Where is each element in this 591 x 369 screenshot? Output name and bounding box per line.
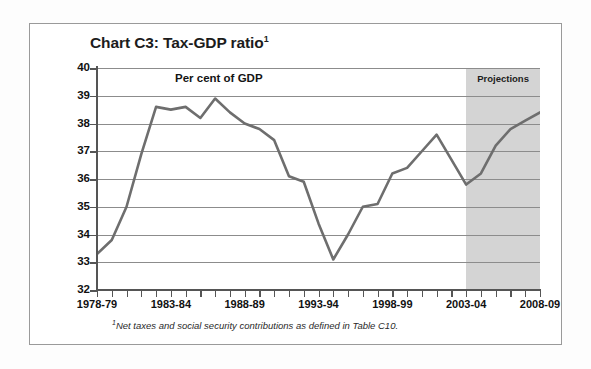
x-axis-tick-mark: [156, 291, 157, 297]
footnote-text: Net taxes and social security contributi…: [116, 320, 398, 331]
x-axis-tick-mark: [407, 291, 408, 297]
x-axis-tick-label: 1998-99: [372, 298, 412, 310]
y-axis-tick-mark: [90, 151, 97, 153]
x-axis-tick-mark: [200, 291, 201, 297]
footnote: 1Net taxes and social security contribut…: [112, 319, 398, 331]
x-axis-tick-mark: [97, 291, 98, 297]
x-axis-tick-mark: [186, 291, 187, 297]
x-axis-tick-mark: [496, 291, 497, 297]
y-axis-tick-mark: [90, 124, 97, 126]
chart-title-text: Chart C3: Tax-GDP ratio: [90, 34, 264, 51]
x-axis-tick-mark: [304, 291, 305, 297]
x-axis-tick-mark: [274, 291, 275, 297]
y-axis-tick-mark: [90, 68, 97, 70]
x-axis-tick-mark: [127, 291, 128, 297]
y-axis-tick-label: 33: [64, 255, 90, 267]
y-axis-tick-label: 34: [64, 228, 90, 240]
x-axis-tick-mark: [245, 291, 246, 297]
y-axis-tick-mark: [90, 207, 97, 209]
y-axis-labels: 323334353637383940: [62, 0, 90, 300]
tax-gdp-ratio-line: [97, 99, 540, 260]
page-title: Chart C3: Tax-GDP ratio1: [90, 34, 269, 52]
x-axis-tick-label: 2008-09: [520, 298, 560, 310]
x-axis-tick-mark: [141, 291, 142, 297]
y-axis-tick-label: 36: [64, 172, 90, 184]
x-axis-tick-mark: [510, 291, 511, 297]
x-axis-tick-mark: [230, 291, 231, 297]
x-axis-tick-mark: [319, 291, 320, 297]
y-axis-tick-label: 40: [64, 61, 90, 73]
y-axis-tick-label: 37: [64, 144, 90, 156]
y-axis-tick-label: 35: [64, 200, 90, 212]
x-axis-tick-mark: [437, 291, 438, 297]
x-axis-tick-label: 2003-04: [446, 298, 486, 310]
x-axis-tick-mark: [348, 291, 349, 297]
x-axis-tick-label: 1983-84: [151, 298, 191, 310]
x-axis-tick-mark: [171, 291, 172, 297]
y-axis-tick-mark: [90, 235, 97, 237]
x-axis-tick-label: 1993-94: [298, 298, 338, 310]
y-axis-tick-mark: [90, 290, 97, 292]
x-axis-tick-label: 1988-89: [224, 298, 264, 310]
x-axis-tick-mark: [289, 291, 290, 297]
x-axis-tick-mark: [422, 291, 423, 297]
x-axis-tick-mark: [378, 291, 379, 297]
x-axis-tick-mark: [481, 291, 482, 297]
title-footnote-marker: 1: [264, 34, 269, 44]
y-axis-tick-mark: [90, 179, 97, 181]
x-axis-tick-mark: [259, 291, 260, 297]
data-series-line: [97, 68, 540, 290]
x-axis-tick-mark: [392, 291, 393, 297]
x-axis-tick-mark: [112, 291, 113, 297]
x-axis-tick-label: 1978-79: [77, 298, 117, 310]
y-axis-tick-mark: [90, 96, 97, 98]
y-axis-tick-label: 32: [64, 283, 90, 295]
chart-figure: Chart C3: Tax-GDP ratio1 Projections Per…: [0, 0, 591, 369]
y-axis-tick-mark: [90, 262, 97, 264]
y-axis-tick-label: 38: [64, 117, 90, 129]
x-axis-tick-mark: [215, 291, 216, 297]
x-axis-tick-mark: [363, 291, 364, 297]
x-axis-tick-mark: [333, 291, 334, 297]
x-axis-tick-mark: [540, 291, 541, 297]
y-axis-tick-label: 39: [64, 89, 90, 101]
x-axis-tick-mark: [451, 291, 452, 297]
x-axis-tick-mark: [525, 291, 526, 297]
x-axis-tick-mark: [466, 291, 467, 297]
